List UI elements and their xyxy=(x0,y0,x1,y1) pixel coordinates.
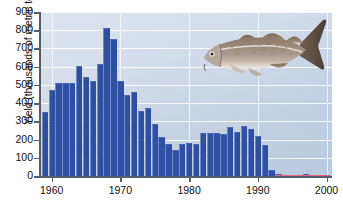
y-tick-label-100: 100 xyxy=(3,151,33,163)
y-tick-label-700: 700 xyxy=(3,41,33,53)
bar-1977 xyxy=(165,144,171,176)
bar-1974 xyxy=(145,108,151,176)
y-tick-900 xyxy=(34,12,39,14)
bar-1959 xyxy=(42,112,48,176)
y-tick-label-0: 0 xyxy=(3,169,33,181)
y-tick-label-600: 600 xyxy=(3,60,33,72)
bar-1983 xyxy=(207,133,213,176)
y-tick-label-900: 900 xyxy=(3,5,33,17)
y-tick-label-800: 800 xyxy=(3,23,33,35)
bar-1964 xyxy=(76,66,82,176)
bar-1982 xyxy=(200,133,206,176)
y-tick-0 xyxy=(34,176,39,178)
y-tick-100 xyxy=(34,158,39,160)
bar-1985 xyxy=(220,134,226,176)
gridline-y-600 xyxy=(40,67,332,68)
bar-1965 xyxy=(83,77,89,176)
x-tick-2000 xyxy=(327,177,329,182)
y-tick-700 xyxy=(34,48,39,50)
x-tick-label-1980: 1980 xyxy=(169,184,209,196)
gridline-y-800 xyxy=(40,30,332,31)
x-tick-1960 xyxy=(52,177,54,182)
x-tick-1980 xyxy=(189,177,191,182)
bar-1970 xyxy=(117,81,123,176)
y-tick-400 xyxy=(34,103,39,105)
gridline-y-700 xyxy=(40,48,332,49)
bar-1988 xyxy=(241,126,247,176)
bar-1991 xyxy=(262,145,268,176)
bar-1969 xyxy=(110,39,116,176)
y-tick-500 xyxy=(34,85,39,87)
y-tick-300 xyxy=(34,121,39,123)
bar-1963 xyxy=(69,83,75,176)
y-axis-line xyxy=(39,12,41,177)
x-axis-line xyxy=(39,176,332,178)
bar-1975 xyxy=(152,124,158,176)
y-tick-label-300: 300 xyxy=(3,114,33,126)
gridline-x-2000 xyxy=(327,12,328,176)
bar-1990 xyxy=(255,136,261,176)
bar-1984 xyxy=(213,133,219,176)
bar-1981 xyxy=(193,144,199,176)
bar-1967 xyxy=(97,64,103,176)
y-tick-label-400: 400 xyxy=(3,96,33,108)
x-tick-1970 xyxy=(120,177,122,182)
bar-1980 xyxy=(186,143,192,176)
y-tick-200 xyxy=(34,140,39,142)
bar-1960 xyxy=(49,90,55,176)
bar-1976 xyxy=(158,137,164,176)
bar-1961 xyxy=(55,83,61,176)
y-tick-label-200: 200 xyxy=(3,133,33,145)
x-tick-label-2000: 2000 xyxy=(307,184,343,196)
x-tick-1990 xyxy=(258,177,260,182)
bar-1968 xyxy=(103,28,109,176)
bar-1989 xyxy=(248,129,254,176)
plot-area xyxy=(40,12,332,176)
bar-1978 xyxy=(172,150,178,176)
bar-1986 xyxy=(227,127,233,176)
bar-1973 xyxy=(138,111,144,176)
bar-1979 xyxy=(179,144,185,176)
x-tick-label-1990: 1990 xyxy=(238,184,278,196)
y-tick-600 xyxy=(34,67,39,69)
y-tick-800 xyxy=(34,30,39,32)
bar-1971 xyxy=(124,95,130,176)
x-tick-label-1970: 1970 xyxy=(100,184,140,196)
bar-1987 xyxy=(234,132,240,176)
bar-1972 xyxy=(131,92,137,176)
bar-1966 xyxy=(90,81,96,176)
x-tick-label-1960: 1960 xyxy=(32,184,72,196)
gridline-y-900 xyxy=(40,12,332,13)
bar-1962 xyxy=(62,83,68,176)
y-tick-label-500: 500 xyxy=(3,78,33,90)
